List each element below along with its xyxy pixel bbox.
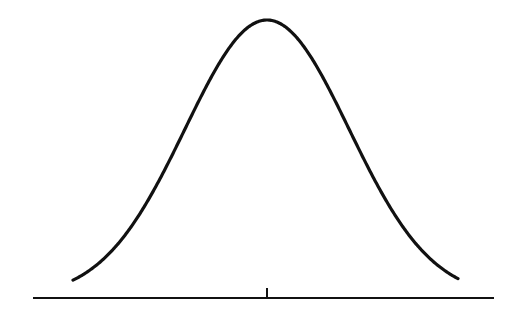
bell-curve-chart bbox=[0, 0, 528, 322]
normal-curve bbox=[73, 20, 458, 280]
